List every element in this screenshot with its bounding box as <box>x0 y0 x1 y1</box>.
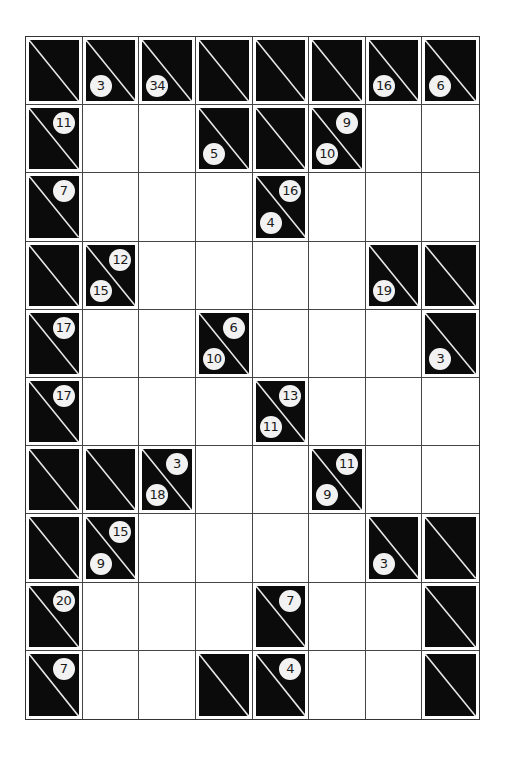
entry-cell[interactable] <box>139 583 196 651</box>
entry-cell[interactable] <box>366 310 423 378</box>
across-clue: 20 <box>53 590 75 612</box>
entry-cell[interactable] <box>83 651 140 719</box>
entry-cell[interactable] <box>309 310 366 378</box>
clue-cell: 416 <box>253 173 310 241</box>
entry-cell[interactable] <box>139 651 196 719</box>
down-clue: 16 <box>373 75 395 97</box>
clue-cell: 20 <box>26 583 83 651</box>
block-cell <box>422 242 479 310</box>
entry-cell[interactable] <box>309 583 366 651</box>
down-clue: 9 <box>90 553 112 575</box>
entry-cell[interactable] <box>366 105 423 173</box>
clue-cell: 3 <box>366 514 423 582</box>
clue-cell: 16 <box>366 37 423 105</box>
down-clue: 11 <box>260 416 282 438</box>
entry-cell[interactable] <box>83 173 140 241</box>
clue-cell: 34 <box>139 37 196 105</box>
diagonal-divider-icon <box>29 449 79 510</box>
entry-cell[interactable] <box>139 173 196 241</box>
block-cell <box>83 446 140 514</box>
clue-cell: 911 <box>309 446 366 514</box>
entry-cell[interactable] <box>309 242 366 310</box>
down-clue: 15 <box>90 280 112 302</box>
across-clue: 6 <box>223 317 245 339</box>
entry-cell[interactable] <box>422 378 479 446</box>
diagonal-divider-icon <box>199 654 249 716</box>
clue-cell: 11 <box>26 105 83 173</box>
entry-cell[interactable] <box>83 378 140 446</box>
entry-cell[interactable] <box>422 105 479 173</box>
clue-cell: 3 <box>83 37 140 105</box>
across-clue: 7 <box>53 180 75 202</box>
entry-cell[interactable] <box>253 514 310 582</box>
block-cell <box>309 37 366 105</box>
diagonal-divider-icon <box>425 586 476 647</box>
entry-cell[interactable] <box>196 514 253 582</box>
block-cell <box>26 242 83 310</box>
entry-cell[interactable] <box>366 173 423 241</box>
entry-cell[interactable] <box>139 242 196 310</box>
down-clue: 4 <box>260 212 282 234</box>
block-cell <box>422 514 479 582</box>
diagonal-divider-icon <box>29 40 79 101</box>
entry-cell[interactable] <box>139 105 196 173</box>
clue-cell: 1113 <box>253 378 310 446</box>
entry-cell[interactable] <box>196 242 253 310</box>
entry-cell[interactable] <box>309 378 366 446</box>
kakuro-board: 3341661151097416151219171063171113183911… <box>25 36 480 720</box>
entry-cell[interactable] <box>422 173 479 241</box>
clue-cell: 4 <box>253 651 310 719</box>
across-clue: 7 <box>279 590 301 612</box>
diagonal-divider-icon <box>86 449 136 510</box>
block-cell <box>253 105 310 173</box>
clue-cell: 183 <box>139 446 196 514</box>
block-cell <box>196 37 253 105</box>
clue-cell: 3 <box>422 310 479 378</box>
diagonal-divider-icon <box>312 40 362 101</box>
entry-cell[interactable] <box>83 310 140 378</box>
entry-cell[interactable] <box>83 105 140 173</box>
clue-cell: 7 <box>253 583 310 651</box>
diagonal-divider-icon <box>29 245 79 306</box>
block-cell <box>26 514 83 582</box>
down-clue: 19 <box>373 280 395 302</box>
across-clue: 17 <box>53 317 75 339</box>
diagonal-divider-icon <box>425 517 476 578</box>
block-cell <box>422 583 479 651</box>
block-cell <box>196 651 253 719</box>
entry-cell[interactable] <box>253 242 310 310</box>
entry-cell[interactable] <box>309 173 366 241</box>
diagonal-divider-icon <box>425 245 476 306</box>
across-clue: 4 <box>279 658 301 680</box>
down-clue: 10 <box>203 348 225 370</box>
entry-cell[interactable] <box>366 378 423 446</box>
entry-cell[interactable] <box>366 446 423 514</box>
clue-cell: 1512 <box>83 242 140 310</box>
clue-cell: 19 <box>366 242 423 310</box>
across-clue: 11 <box>53 112 75 134</box>
entry-cell[interactable] <box>309 651 366 719</box>
entry-cell[interactable] <box>196 378 253 446</box>
entry-cell[interactable] <box>196 173 253 241</box>
entry-cell[interactable] <box>196 446 253 514</box>
clue-cell: 7 <box>26 651 83 719</box>
entry-cell[interactable] <box>253 310 310 378</box>
entry-cell[interactable] <box>196 583 253 651</box>
clue-cell: 17 <box>26 378 83 446</box>
across-clue: 17 <box>53 385 75 407</box>
entry-cell[interactable] <box>366 583 423 651</box>
entry-cell[interactable] <box>422 446 479 514</box>
entry-cell[interactable] <box>253 446 310 514</box>
entry-cell[interactable] <box>139 378 196 446</box>
clue-cell: 106 <box>196 310 253 378</box>
entry-cell[interactable] <box>139 514 196 582</box>
across-clue: 7 <box>53 658 75 680</box>
across-clue: 13 <box>279 385 301 407</box>
block-cell <box>26 446 83 514</box>
clue-cell: 5 <box>196 105 253 173</box>
entry-cell[interactable] <box>309 514 366 582</box>
entry-cell[interactable] <box>366 651 423 719</box>
entry-cell[interactable] <box>83 583 140 651</box>
block-cell <box>422 651 479 719</box>
entry-cell[interactable] <box>139 310 196 378</box>
